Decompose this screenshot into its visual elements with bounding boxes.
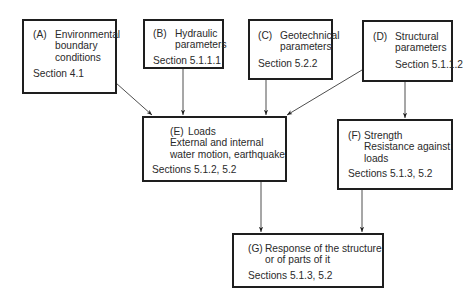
node-title: Response of the structure	[265, 243, 382, 254]
node-text: External and internal	[152, 137, 282, 148]
node-title: Environmental	[55, 29, 120, 40]
node-section-ref: Section 4.1	[33, 68, 111, 79]
node-b-hydraulic-parameters: (B) Hydraulic parameters Section 5.1.1.1	[143, 19, 224, 69]
arrow-a-to-e	[116, 83, 152, 115]
node-f-strength: (F) Strength Resistance against loads Se…	[337, 119, 453, 190]
node-text: or of parts of it	[265, 254, 382, 265]
node-section-ref: Sections 5.1.2, 5.2	[152, 164, 282, 175]
node-title: Strength	[364, 130, 450, 141]
node-section-ref: Section 5.1.1.1	[153, 55, 219, 66]
node-letter: (G)	[248, 243, 265, 266]
node-e-loads: (E) Loads External and internal water mo…	[142, 116, 287, 182]
node-text: boundary	[55, 40, 120, 51]
node-text: conditions	[55, 52, 120, 63]
node-section-ref: Section 5.2.2	[258, 58, 328, 69]
node-section-ref: Sections 5.1.3, 5.2	[248, 270, 379, 281]
node-text: Resistance against	[364, 141, 450, 152]
node-text: parameters	[280, 41, 339, 52]
node-g-response-of-structure: (G) Response of the structure or of part…	[232, 233, 384, 288]
node-title: Loads	[188, 126, 282, 137]
node-text: parameters	[175, 39, 227, 50]
flow-diagram: (A) Environmental boundary conditions Se…	[0, 0, 468, 300]
node-letter: (B)	[153, 28, 175, 51]
node-a-environmental-boundary-conditions: (A) Environmental boundary conditions Se…	[22, 19, 117, 94]
node-title: Geotechnical	[280, 30, 339, 41]
node-title: Structural	[395, 31, 448, 42]
node-title: Hydraulic	[175, 28, 227, 39]
node-letter: (A)	[33, 29, 55, 63]
node-c-geotechnical-parameters: (C) Geotechnical parameters Section 5.2.…	[248, 19, 333, 80]
node-letter: (F)	[348, 130, 364, 164]
node-text: water motion, earthquake	[152, 149, 282, 160]
node-text: loads	[364, 153, 450, 164]
node-section-ref: Section 5.1.1.2	[373, 59, 448, 70]
node-text: parameters	[395, 42, 448, 53]
node-d-structural-parameters: (D) Structural parameters Section 5.1.1.…	[362, 20, 453, 82]
node-letter: (E)	[170, 126, 188, 137]
node-section-ref: Sections 5.1.3, 5.2	[348, 168, 448, 179]
node-letter: (D)	[373, 31, 395, 54]
node-letter: (C)	[258, 30, 280, 53]
